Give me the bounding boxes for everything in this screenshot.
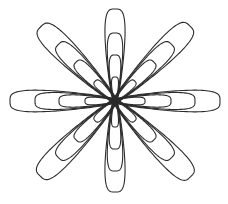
flower-drawing-canvas bbox=[0, 0, 228, 204]
petal-loop bbox=[109, 38, 178, 107]
petal-loop bbox=[52, 95, 121, 164]
flower-line-art bbox=[0, 0, 228, 204]
petal-loop bbox=[52, 38, 121, 107]
flower-center bbox=[113, 99, 117, 103]
petal-loop bbox=[109, 95, 178, 164]
